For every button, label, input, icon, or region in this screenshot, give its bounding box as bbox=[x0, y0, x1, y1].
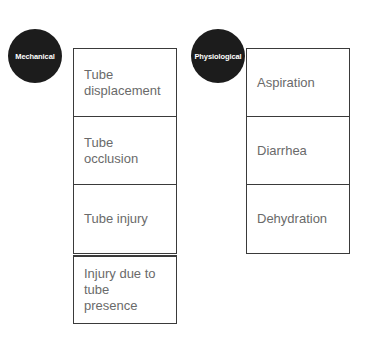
mechanical-items-column: Tube displacement Tube occlusion Tube in… bbox=[73, 48, 177, 324]
item-tube-injury: Tube injury bbox=[73, 184, 177, 254]
item-tube-occlusion: Tube occlusion bbox=[73, 116, 177, 186]
physiological-items-column: Aspiration Diarrhea Dehydration bbox=[246, 48, 350, 254]
item-injury-due-to-tube-presence: Injury due to tube presence bbox=[73, 255, 177, 325]
physiological-circle-label: Physiological bbox=[191, 29, 245, 83]
mechanical-circle-label: Mechanical bbox=[8, 29, 62, 83]
item-tube-displacement: Tube displacement bbox=[73, 48, 177, 118]
item-dehydration: Dehydration bbox=[246, 184, 350, 254]
item-diarrhea: Diarrhea bbox=[246, 116, 350, 186]
item-aspiration: Aspiration bbox=[246, 48, 350, 118]
